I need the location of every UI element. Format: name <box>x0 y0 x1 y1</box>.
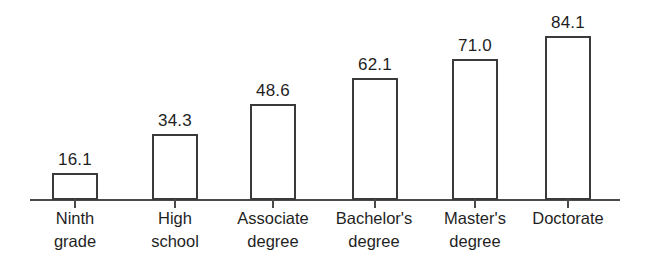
category-label-line: Doctorate <box>513 207 623 230</box>
bar-value-label: 84.1 <box>523 13 613 32</box>
bar-rect[interactable] <box>545 36 591 200</box>
bar-group: 84.1Doctorate <box>0 0 646 270</box>
bar-chart: 16.1Ninthgrade34.3Highschool48.6Associat… <box>0 0 646 270</box>
x-axis-category-label: Doctorate <box>513 207 623 230</box>
plot-area: 16.1Ninthgrade34.3Highschool48.6Associat… <box>0 0 646 270</box>
